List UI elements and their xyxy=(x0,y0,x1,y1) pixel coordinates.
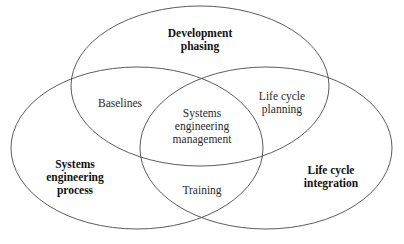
label-line: planning xyxy=(259,103,305,116)
label-line: engineering xyxy=(46,171,104,184)
label-line: Life cycle xyxy=(259,90,305,103)
label-life-cycle-planning: Life cycle planning xyxy=(259,90,305,116)
label-line: integration xyxy=(304,177,358,190)
label-line: management xyxy=(173,133,232,146)
label-line: process xyxy=(46,184,104,197)
label-line: Life cycle xyxy=(304,164,358,177)
label-line: phasing xyxy=(168,40,233,53)
label-systems-engineering-management: Systems engineering management xyxy=(173,107,232,146)
label-training: Training xyxy=(182,184,221,197)
label-line: engineering xyxy=(173,120,232,133)
ellipse-systems-engineering-process xyxy=(11,67,263,229)
label-life-cycle-integration: Life cycle integration xyxy=(304,164,358,190)
label-development-phasing: Development phasing xyxy=(168,27,233,53)
label-line: Baselines xyxy=(98,97,142,110)
label-line: Development xyxy=(168,27,233,40)
label-line: Systems xyxy=(46,158,104,171)
label-systems-engineering-process: Systems engineering process xyxy=(46,158,104,197)
label-line: Systems xyxy=(173,107,232,120)
label-baselines: Baselines xyxy=(98,97,142,110)
label-line: Training xyxy=(182,184,221,197)
